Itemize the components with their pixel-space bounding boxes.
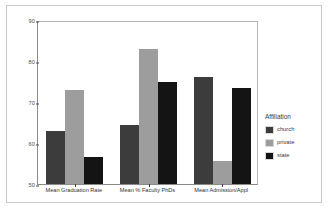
bar — [213, 161, 232, 184]
legend-item-church[interactable]: church — [265, 125, 321, 134]
legend-swatch-icon-state — [265, 152, 274, 160]
chart-frame: 5060708090 Mean Graduation RateMean % Fa… — [6, 5, 322, 203]
chart-plot-wrapper: 5060708090 Mean Graduation RateMean % Fa… — [7, 6, 323, 204]
legend-swatch-icon-private — [265, 139, 274, 147]
bar — [120, 125, 139, 184]
bar — [232, 88, 251, 184]
legend-label-private: private — [277, 140, 294, 146]
chart-legend: Affiliation church private state — [265, 114, 321, 164]
legend-title: Affiliation — [265, 114, 321, 120]
y-axis-tick-mark — [36, 22, 39, 23]
legend-label-church: church — [277, 127, 294, 133]
x-axis-tick-label: Mean Admission/Appl — [194, 188, 248, 194]
legend-item-private[interactable]: private — [265, 138, 321, 147]
bar — [84, 157, 103, 184]
plot-area: 5060708090 — [37, 21, 258, 185]
bar — [194, 77, 213, 184]
legend-swatch-icon-church — [265, 126, 274, 134]
y-axis-tick-mark — [36, 63, 39, 64]
legend-item-state[interactable]: state — [265, 151, 321, 160]
bar — [65, 90, 84, 184]
y-axis-tick-mark — [36, 145, 39, 146]
y-axis-tick-mark — [36, 186, 39, 187]
legend-label-state: state — [277, 153, 290, 159]
x-axis-tick-label: Mean % Faculty PhDs — [120, 188, 175, 194]
bar — [158, 82, 177, 185]
y-axis-tick-mark — [36, 104, 39, 105]
bar — [139, 49, 158, 184]
bar — [46, 131, 65, 184]
x-axis-tick-label: Mean Graduation Rate — [46, 188, 103, 194]
